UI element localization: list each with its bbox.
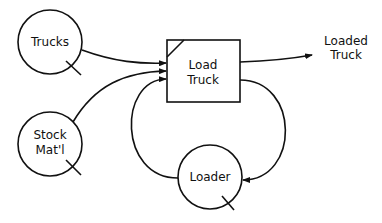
loader-queue-node: Loader	[178, 145, 242, 210]
edge-trucks-to-load	[82, 50, 166, 63]
output-label-line2: Truck	[329, 48, 362, 62]
output-label-line1: Loaded	[324, 34, 368, 48]
load-truck-activity-node: Load Truck	[167, 40, 240, 102]
load-truck-label-line1: Load	[189, 58, 218, 72]
trucks-queue-node: Trucks	[18, 10, 82, 75]
queue-tick-icon	[66, 160, 81, 175]
load-truck-label-line2: Truck	[186, 73, 219, 87]
edge-stock-to-load	[73, 71, 166, 122]
loaded-truck-output-label: Loaded Truck	[324, 34, 368, 62]
loader-label: Loader	[189, 170, 230, 184]
edge-load-to-output	[240, 55, 312, 62]
stock-label-line2: Mat'l	[35, 143, 64, 157]
queue-tick-icon	[222, 196, 234, 210]
activity-cycle-diagram: Trucks Stock Mat'l Loader Load Truck Loa…	[0, 0, 382, 223]
stock-label-line1: Stock	[33, 128, 66, 142]
activity-corner-icon	[167, 40, 184, 57]
edge-load-to-loader	[240, 80, 285, 180]
edge-loader-to-load	[131, 79, 178, 178]
trucks-label: Trucks	[30, 35, 69, 49]
